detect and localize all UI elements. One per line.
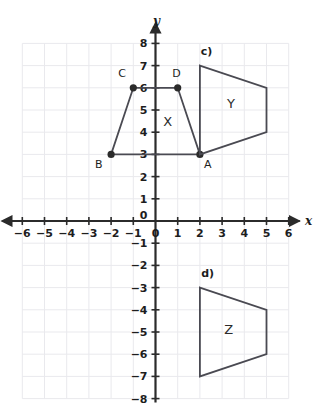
vertex-dot-c xyxy=(130,84,137,91)
x-tick-label: 3 xyxy=(218,227,226,240)
x-axis-label: x xyxy=(304,214,313,228)
y-tick-label: 4 xyxy=(140,126,148,139)
x-tick-label: 1 xyxy=(174,227,182,240)
vertex-label-a: A xyxy=(204,158,212,171)
coordinate-plane-figure: −6−5−4−3−2−1012345687654321−1−2−3−4−5−6−… xyxy=(0,0,319,412)
part-label-d: d) xyxy=(201,267,214,280)
shape-label-z: Z xyxy=(224,322,233,337)
x-tick-label: 0 xyxy=(152,227,160,240)
y-tick-label: 2 xyxy=(140,171,148,184)
y-tick-label: 8 xyxy=(140,37,148,50)
x-tick-label: −4 xyxy=(58,227,75,240)
vertex-label-d: D xyxy=(172,67,180,80)
vertex-dot-b xyxy=(108,151,115,158)
shape-z: Zd) xyxy=(200,267,267,376)
x-tick-label: 5 xyxy=(263,227,271,240)
vertex-dot-d xyxy=(174,84,181,91)
x-tick-label: 4 xyxy=(240,227,248,240)
y-tick-label: −6 xyxy=(131,348,148,361)
y-tick-label: −4 xyxy=(131,304,148,317)
x-tick-label: −3 xyxy=(80,227,97,240)
y-axis-label: y xyxy=(152,14,161,28)
vertex-label-c: C xyxy=(118,67,126,80)
y-tick-label: 1 xyxy=(140,193,148,206)
vertex-label-b: B xyxy=(95,158,103,171)
coordinate-plane-svg: −6−5−4−3−2−1012345687654321−1−2−3−4−5−6−… xyxy=(0,0,319,412)
x-tick-label: −6 xyxy=(14,227,31,240)
y-tick-label: −3 xyxy=(131,282,148,295)
x-tick-label: −2 xyxy=(103,227,120,240)
x-tick-label: −5 xyxy=(36,227,53,240)
y-tick-label: −1 xyxy=(131,237,148,250)
y-tick-label: −8 xyxy=(131,393,148,406)
shape-label-x: X xyxy=(163,114,172,129)
y-tick-label: 7 xyxy=(140,60,148,73)
y-tick-label: −7 xyxy=(131,370,148,383)
y-tick-label: −2 xyxy=(131,259,148,272)
y-tick-label: 5 xyxy=(140,104,148,117)
origin-label: 0 xyxy=(140,209,148,222)
x-tick-label: 2 xyxy=(196,227,204,240)
y-tick-label: −5 xyxy=(131,326,148,339)
shape-y: Yc) xyxy=(200,45,267,154)
part-label-c: c) xyxy=(201,45,213,58)
shape-x: XABCD xyxy=(95,67,212,171)
shape-label-y: Y xyxy=(226,96,235,111)
x-tick-label: 6 xyxy=(285,227,293,240)
